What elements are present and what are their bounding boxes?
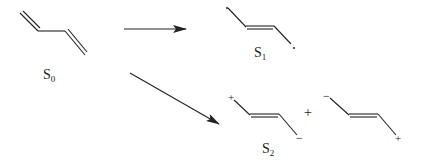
- arrow-to-s2: [130, 73, 219, 124]
- radical-dot-right: [293, 47, 295, 49]
- charge-minus-s2b-left: −: [323, 90, 330, 102]
- label-s1: S1: [254, 46, 266, 62]
- s0-molecule: [20, 11, 87, 55]
- s2-form-a: [234, 100, 297, 135]
- diagram-graphics: [0, 0, 424, 164]
- reaction-diagram: S0 S1 S2 + − + − +: [0, 0, 424, 164]
- radical-dot-left: [226, 7, 228, 9]
- resonance-plus-sign: +: [304, 106, 312, 120]
- s1-molecule: [228, 8, 291, 44]
- label-s2: S2: [262, 142, 274, 158]
- label-s0: S0: [43, 68, 55, 84]
- charge-minus-s2a-right: −: [296, 132, 303, 144]
- charge-plus-s2b-right: +: [395, 133, 401, 144]
- charge-plus-s2a-left: +: [228, 92, 234, 103]
- s2-form-b: [330, 98, 396, 135]
